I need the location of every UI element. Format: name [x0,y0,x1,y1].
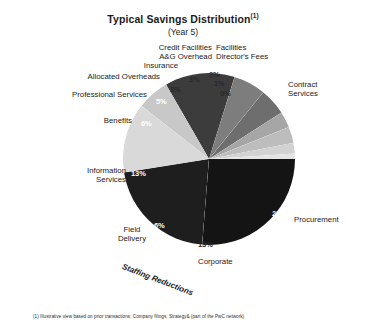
page-title-text: Typical Savings Distribution [107,12,250,24]
callout-label-field-delivery-line1: Field [112,225,152,234]
pie-slice [209,154,295,245]
annotation-staffing-reductions: Staffing Reductions [121,262,195,297]
chart-footnote: (1) Illustrative view based on prior tra… [33,314,244,319]
pie-slices-group [123,73,295,245]
chart-subtitle: (Year 5) [0,27,366,37]
callout-label-benefits: Benefits [64,116,132,125]
callout-label-facilities-directors-fees: Facilities Director's Fees [216,43,268,62]
callout-label-field-delivery: Field Delivery [112,225,152,244]
slice-percent-facilities-directors-fees: 0% [220,89,231,98]
slice-percent-insurance: 2% [209,70,220,79]
page-title: Typical Savings Distribution(1) [107,12,258,25]
callout-label-ag-overhead: A&G Overhead [130,52,212,61]
callout-label-facilities-directors-fees-line2: Director's Fees [216,52,268,61]
title-footnote-marker: (1) [250,12,258,19]
slice-percent-credit-facilities: 1% [214,79,225,88]
callout-label-credit-facilities: Credit Facilities [130,43,212,52]
slice-percent-professional-services: 5% [156,97,167,106]
slice-percent-allocated-overheads: 3% [170,85,181,94]
slice-percent-procurement: 21% [272,209,287,218]
callout-label-allocated-overheads: Allocated Overheads [48,72,160,81]
callout-label-information-services-line2: Services [56,175,126,184]
callout-label-facilities-directors-fees-line1: Facilities [216,43,268,52]
callout-label-insurance: Insurance [104,61,178,70]
callout-label-procurement: Procurement [294,215,339,224]
slice-percent-ag-overhead: 3% [189,75,200,84]
slice-percent-information-services: 13% [131,169,146,178]
slice-percent-corporate: 13% [198,240,213,249]
callout-label-information-services: Information Services [56,166,126,185]
slice-percent-benefits: 6% [141,119,152,128]
callout-label-information-services-line1: Information [56,166,126,175]
callout-label-corporate: Corporate [198,257,233,266]
callout-label-contract-services: Contract Services [288,80,318,99]
callout-label-contract-services-line1: Contract [288,80,318,89]
chart-canvas: Typical Savings Distribution(1) (Year 5)… [0,0,366,328]
slice-percent-field-delivery: 6% [154,221,165,230]
callout-label-contract-services-line2: Services [288,89,318,98]
pie-chart [123,73,295,245]
chart-title-block: Typical Savings Distribution(1) (Year 5) [0,8,366,37]
callout-label-field-delivery-line2: Delivery [112,234,152,243]
callout-label-professional-services: Professional Services [32,90,147,99]
